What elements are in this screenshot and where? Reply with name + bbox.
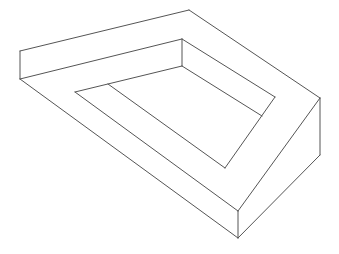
left-middle-edge	[75, 92, 238, 211]
right-lower-front-edge	[238, 155, 320, 238]
inner-right-diagonal	[225, 97, 275, 168]
impossible-frame-figure	[0, 0, 339, 254]
left-bottom-outer-edge	[20, 79, 238, 238]
line-drawing	[0, 0, 339, 254]
inner-top-left-edge	[75, 66, 182, 92]
inner-top-right-edge	[182, 39, 275, 97]
right-upper-front-edge	[238, 98, 320, 211]
outer-top-back-edge	[20, 10, 189, 51]
inner-right-face-edge	[182, 66, 262, 116]
